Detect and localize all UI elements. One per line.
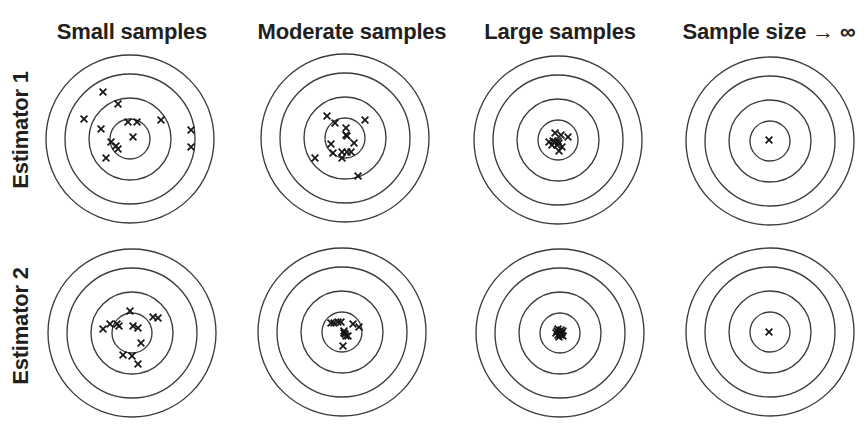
target-ring (112, 313, 152, 353)
sample-estimate-mark (766, 329, 773, 336)
sample-estimate-mark (100, 326, 107, 333)
sample-estimate-mark (116, 323, 123, 330)
target-estimator2-infinite-sample-size (686, 248, 854, 416)
sample-estimate-mark (188, 127, 195, 134)
targets-canvas (0, 0, 867, 433)
sample-estimate-mark (552, 130, 559, 137)
sample-estimate-mark (766, 137, 773, 144)
sample-estimate-mark (188, 144, 195, 151)
sample-estimate-mark (312, 155, 319, 162)
sample-estimate-mark (103, 155, 110, 162)
sample-estimate-mark (138, 340, 145, 347)
sample-estimate-mark (328, 141, 335, 148)
estimator-consistency-figure: Small samples Moderate samples Large sam… (0, 0, 867, 433)
sample-estimate-mark (362, 117, 369, 124)
sample-estimate-mark (130, 134, 137, 141)
sample-estimate-mark (107, 321, 114, 328)
target-estimator1-infinite-sample-size (686, 57, 854, 225)
target-estimator1-large-samples (474, 56, 642, 224)
sample-estimate-mark (340, 343, 347, 350)
sample-estimate-mark (158, 117, 165, 124)
target-estimator2-large-samples (476, 249, 644, 417)
sample-estimate-mark (330, 150, 337, 157)
sample-estimate-mark (565, 134, 572, 141)
sample-estimate-mark (98, 126, 105, 133)
sample-estimate-mark (351, 140, 358, 147)
target-estimator1-moderate-samples (261, 54, 429, 222)
sample-estimate-mark (100, 89, 107, 96)
sample-estimate-mark (81, 116, 88, 123)
target-estimator1-small-samples (46, 55, 214, 223)
sample-estimate-mark (556, 148, 563, 155)
sample-estimate-mark (324, 113, 331, 120)
sample-estimate-mark (135, 361, 142, 368)
sample-estimate-mark (120, 352, 127, 359)
target-ring (67, 268, 197, 398)
sample-estimate-mark (115, 101, 122, 108)
target-ring (48, 249, 216, 417)
target-estimator2-moderate-samples (258, 248, 426, 416)
sample-estimate-mark (155, 315, 162, 322)
sample-estimate-mark (343, 125, 350, 132)
sample-estimate-mark (115, 146, 122, 153)
target-ring (91, 292, 173, 374)
sample-estimate-mark (348, 149, 355, 156)
target-estimator2-small-samples (48, 249, 216, 417)
